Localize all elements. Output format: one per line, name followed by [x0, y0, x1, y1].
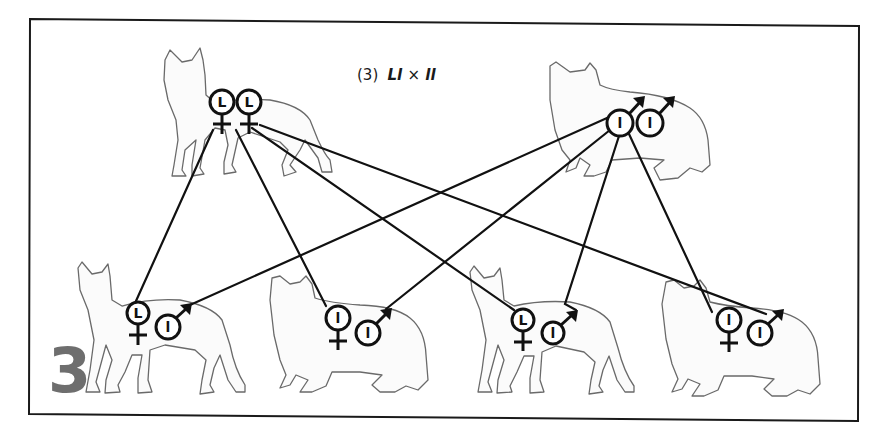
cross-female-genotype: Ll: [387, 66, 403, 84]
kitten-4-cat-silhouette: [662, 280, 820, 396]
allele-label: l: [758, 325, 763, 341]
cross-times-sign: ×: [407, 66, 420, 84]
allele-label: L: [134, 305, 143, 321]
genetics-cross-diagram: L L l l L: [0, 0, 883, 442]
allele-label: l: [727, 312, 732, 328]
panel-number: 3: [48, 334, 91, 407]
allele-label: l: [648, 115, 653, 131]
allele-label: l: [166, 319, 171, 335]
allele-label: l: [551, 325, 556, 341]
cross-number: (3): [357, 66, 378, 84]
allele-label: l: [366, 325, 371, 341]
cross-male-genotype: ll: [425, 66, 436, 84]
line-father-to-kitten-1: [190, 118, 607, 305]
allele-label: L: [218, 94, 227, 110]
allele-label: L: [245, 94, 254, 110]
allele-label: L: [519, 312, 528, 328]
allele-label: l: [336, 310, 341, 326]
cross-title: (3) Ll × ll: [357, 66, 436, 84]
allele-label: l: [618, 115, 623, 131]
line-mother-to-kitten-1: [136, 130, 213, 301]
